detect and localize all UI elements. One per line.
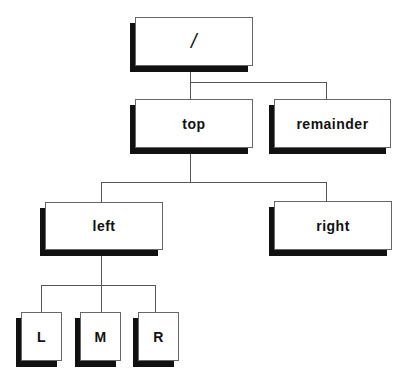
- node-remainder: remainder: [274, 99, 391, 148]
- node-right: right: [274, 201, 392, 250]
- edge-left-vertical: [101, 182, 102, 202]
- edge-right-vertical: [326, 182, 327, 201]
- edge-L-vertical: [41, 285, 42, 312]
- node-R: R: [138, 312, 179, 361]
- node-M: M: [80, 312, 121, 361]
- node-left: left: [45, 202, 163, 250]
- edge-top-horizontal: [101, 182, 327, 183]
- node-top: top: [135, 99, 253, 148]
- node-L: L: [21, 312, 62, 361]
- edge-root-horizontal: [190, 82, 327, 83]
- edge-remainder-vertical: [326, 82, 327, 99]
- edge-R-vertical: [155, 285, 156, 312]
- edge-left-down-vertical: [101, 250, 102, 312]
- edge-lmr-horizontal: [41, 285, 156, 286]
- node-root: /: [135, 17, 253, 66]
